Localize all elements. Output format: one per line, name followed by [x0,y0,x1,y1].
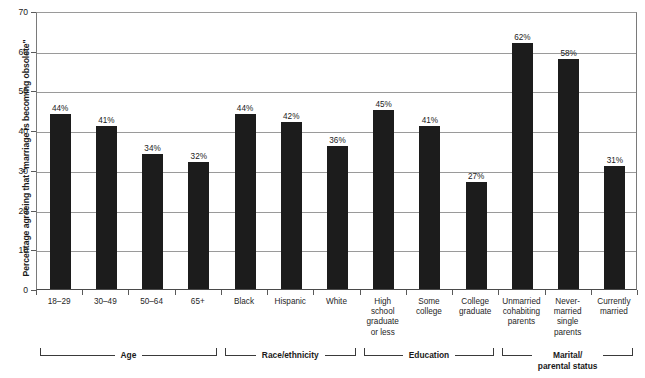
bar-value-label: 42% [271,113,311,121]
x-axis-label-line: married [591,307,637,317]
bar-value-label: 58% [549,50,589,58]
bar-value-label: 36% [318,137,358,145]
bar-value-label: 62% [502,34,542,42]
x-axis-label-line: Unmarried [498,297,544,307]
x-tick-mark [313,290,314,295]
bracket-line-left [225,355,256,356]
group-bracket: Age [40,348,217,370]
bracket-line-right [325,355,356,356]
x-tick-mark [36,290,37,295]
x-tick-mark [221,290,222,295]
x-tick-mark [267,290,268,295]
x-axis-label-line: 30–49 [82,297,128,307]
x-axis-label-line: college [406,307,452,317]
bar [558,59,579,289]
bracket-line-left [364,355,403,356]
x-axis-label: Currentlymarried [591,297,637,317]
y-tick-label: 10 [0,245,28,255]
bar-value-label: 32% [179,153,219,161]
x-axis-label-line: single [545,317,591,327]
x-axis-label-line: Currently [591,297,637,307]
y-tick-label: 70 [0,7,28,17]
x-axis-label-line: parents [498,317,544,327]
x-tick-mark [360,290,361,295]
y-tick-label: 20 [0,206,28,216]
x-axis-label: 18–29 [36,297,82,307]
x-axis-label: Collegegraduate [452,297,498,317]
x-axis-label-line: 65+ [175,297,221,307]
x-axis-label-line: Some [406,297,452,307]
x-axis-label-line: parents [545,328,591,338]
x-axis-label-line: College [452,297,498,307]
x-axis-label: 30–49 [82,297,128,307]
group-bracket: Marital/parental status [502,348,633,370]
gridline [37,92,636,93]
bar-value-label: 45% [364,101,404,109]
x-axis-label: 65+ [175,297,221,307]
bar-chart: Percentage agreeing that "marriage is be… [0,0,645,378]
x-axis-label: Highschoolgraduateor less [360,297,406,338]
group-label-line: parental status [502,361,633,372]
x-axis-label-line: White [313,297,359,307]
bar [281,122,302,289]
bar-value-label: 44% [40,105,80,113]
x-axis-label-line: graduate [452,307,498,317]
bar-value-label: 41% [86,117,126,125]
group-bracket: Race/ethnicity [225,348,356,370]
x-axis-label: Unmarriedcohabitingparents [498,297,544,328]
bar [604,166,625,289]
y-tick-label: 40 [0,126,28,136]
y-tick-label: 50 [0,86,28,96]
x-tick-mark [82,290,83,295]
x-tick-mark [406,290,407,295]
x-axis-label-line: married [545,307,591,317]
y-tick-label: 0 [0,285,28,295]
group-bracket: Education [364,348,495,370]
y-tick-label: 60 [0,47,28,57]
bracket-line-left [40,355,115,356]
bracket-line-right [142,355,217,356]
bar-value-label: 41% [410,117,450,125]
x-axis-label: Hispanic [267,297,313,307]
bar [142,154,163,289]
bracket-line-right [455,355,494,356]
bar [419,126,440,289]
x-axis-label: Never-marriedsingleparents [545,297,591,338]
bar [512,43,533,289]
x-tick-mark [452,290,453,295]
x-axis-label: 50–64 [128,297,174,307]
x-axis-label-line: cohabiting [498,307,544,317]
x-tick-mark [175,290,176,295]
bar [235,114,256,289]
x-axis-label: Black [221,297,267,307]
x-axis-label-line: graduate [360,317,406,327]
bar-value-label: 31% [595,157,635,165]
bar-value-label: 44% [225,105,265,113]
x-axis-label-line: school [360,307,406,317]
x-axis-label-line: Never- [545,297,591,307]
x-axis-label-line: 18–29 [36,297,82,307]
x-axis-label: Somecollege [406,297,452,317]
bar [466,182,487,289]
x-axis-label-line: Black [221,297,267,307]
bar [373,110,394,289]
x-tick-mark [498,290,499,295]
group-label: Marital/parental status [502,350,633,371]
bar [188,162,209,289]
bar-value-label: 27% [456,173,496,181]
x-axis-label-line: Hispanic [267,297,313,307]
x-axis-label-line: 50–64 [128,297,174,307]
y-tick-label: 30 [0,166,28,176]
plot-area: 44%41%34%32%44%42%36%45%41%27%62%58%31% [36,12,637,290]
x-tick-mark [128,290,129,295]
bracket-line-right [603,355,633,356]
bar [50,114,71,289]
x-tick-mark [637,290,638,295]
bar-value-label: 34% [133,145,173,153]
x-axis-label-line: or less [360,328,406,338]
bar [327,146,348,289]
gridline [37,53,636,54]
bracket-line-left [502,355,532,356]
x-tick-mark [591,290,592,295]
x-tick-mark [545,290,546,295]
